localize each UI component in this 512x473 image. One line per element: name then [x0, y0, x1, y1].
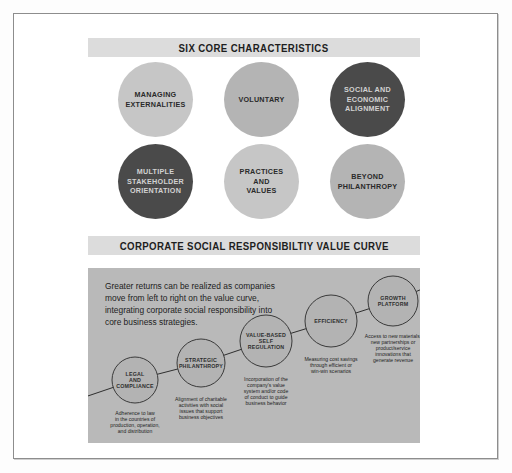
curve-node-title-line: EFFICIENCY [314, 318, 348, 324]
curve-stage-node: LEGALANDCOMPLIANCEAdherence to lawin the… [110, 357, 159, 434]
curve-stage-node: VALUE-BASEDSELFREGULATIONIncorporation o… [240, 315, 292, 406]
characteristic-circle: SOCIAL AND ECONOMIC ALIGNMENT [330, 62, 405, 137]
curve-node-caption-line: business behavior [245, 400, 286, 406]
curve-node-caption-line: and distribution [118, 428, 153, 434]
curve-node-title-line: LEGAL [126, 371, 146, 377]
curve-node-title-line: VALUE-BASED [246, 332, 286, 338]
banner-six-core-title: SIX CORE CHARACTERISTICS [179, 42, 329, 54]
value-curve-diagram: LEGALANDCOMPLIANCEAdherence to lawin the… [88, 268, 420, 443]
characteristic-label: MULTIPLE STAKEHOLDER ORIENTATION [123, 167, 188, 196]
curve-stage-node: GROWTHPLATFORMAccess to new materials,ne… [365, 276, 420, 363]
curve-node-title-line: GROWTH [380, 295, 405, 301]
curve-node-title-line: REGULATION [248, 344, 285, 350]
curve-node-caption-line: win-win scenarios [311, 368, 352, 374]
banner-six-core-characteristics: SIX CORE CHARACTERISTICS [88, 38, 420, 57]
characteristic-circle: MANAGING EXTERNALITIES [118, 62, 193, 137]
banner-value-curve: CORPORATE SOCIAL RESPONSIBILTIY VALUE CU… [88, 236, 420, 255]
curve-node-caption-line: business objectives [179, 414, 224, 420]
curve-node-title-line: SELF [259, 338, 274, 344]
curve-node-title-line: PLATFORM [378, 301, 409, 307]
six-core-circle-grid: MANAGING EXTERNALITIESVOLUNTARYSOCIAL AN… [118, 62, 408, 220]
characteristic-label: VOLUNTARY [234, 95, 288, 105]
characteristic-label: BEYOND PHILANTHROPY [334, 172, 402, 191]
curve-node-title-line: AND [129, 377, 141, 383]
characteristic-label: MANAGING EXTERNALITIES [122, 90, 190, 109]
banner-value-curve-title: CORPORATE SOCIAL RESPONSIBILTIY VALUE CU… [119, 240, 388, 252]
curve-stage-node: STRATEGICPHILANTHROPYAlignment of charit… [175, 339, 227, 420]
characteristic-circle: VOLUNTARY [224, 62, 299, 137]
characteristic-circle: MULTIPLE STAKEHOLDER ORIENTATION [118, 144, 193, 219]
characteristic-label: SOCIAL AND ECONOMIC ALIGNMENT [340, 85, 395, 114]
page-canvas: SIX CORE CHARACTERISTICS MANAGING EXTERN… [0, 0, 512, 473]
curve-node-caption-line: generate revenue [373, 357, 413, 363]
characteristic-circle: BEYOND PHILANTHROPY [330, 144, 405, 219]
curve-node-title-line: PHILANTHROPY [179, 363, 223, 369]
characteristic-circle: PRACTICES AND VALUES [224, 144, 299, 219]
value-curve-panel: Greater returns can be realized as compa… [88, 268, 420, 443]
curve-node-title-line: STRATEGIC [185, 357, 217, 363]
curve-node-title-line: COMPLIANCE [116, 383, 154, 389]
characteristic-label: PRACTICES AND VALUES [236, 167, 288, 196]
curve-stage-node: EFFICIENCYMeasuring cost savingsthrough … [304, 295, 358, 374]
